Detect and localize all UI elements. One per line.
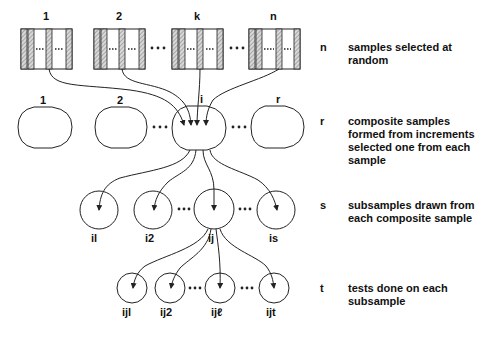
samples-description-text: samples selected at random <box>348 41 473 67</box>
subsample-circle-i2 <box>134 191 172 229</box>
test-circle-ij1 <box>117 273 147 303</box>
tests-key: t <box>320 282 334 295</box>
composite-oval-r <box>251 106 304 148</box>
test-label-ijt: ijt <box>266 306 276 318</box>
subsample-label-i2: i2 <box>145 232 154 244</box>
sample-box-1 <box>21 29 72 69</box>
tests-description: t tests done on each subsample <box>320 282 479 312</box>
sample-label-n: n <box>270 10 277 22</box>
composite-oval-1 <box>18 107 72 148</box>
samples-key: n <box>320 41 334 54</box>
subsample-label-i1: il <box>91 232 97 244</box>
subsample-circle-is <box>257 191 295 229</box>
test-label-ij2: ij2 <box>160 306 172 318</box>
composites-description-text: composite samples formed from increments… <box>348 115 476 167</box>
subsample-label-is: is <box>269 232 278 244</box>
sample-label-2: 2 <box>116 10 122 22</box>
sample-box-k <box>172 29 223 69</box>
composites-description: r composite samples formed from incremen… <box>320 115 479 175</box>
subsamples-description: s subsamples drawn from each composite s… <box>320 199 479 229</box>
sample-box-2 <box>94 29 145 69</box>
composite-oval-2 <box>95 107 147 148</box>
test-circle-ij2 <box>155 273 185 303</box>
composites-key: r <box>320 115 334 128</box>
subsample-label-ij: ij <box>208 232 214 244</box>
subsamples-key: s <box>320 199 334 212</box>
composite-label-2: 2 <box>117 94 123 106</box>
sample-label-k: k <box>194 10 200 22</box>
subsamples-description-text: subsamples drawn from each composite sam… <box>348 199 478 225</box>
tests-description-text: tests done on each subsample <box>348 282 458 308</box>
composite-label-1: 1 <box>40 94 46 106</box>
test-label-ijl: ijℓ <box>211 306 223 318</box>
composite-oval-i <box>172 106 226 150</box>
samples-description: n samples selected at random <box>320 41 479 71</box>
sample-label-1: 1 <box>43 10 49 22</box>
composite-label-i: i <box>200 93 203 105</box>
test-label-ij1: ijl <box>122 306 131 318</box>
sample-box-n <box>249 29 300 69</box>
composite-label-r: r <box>276 93 280 105</box>
